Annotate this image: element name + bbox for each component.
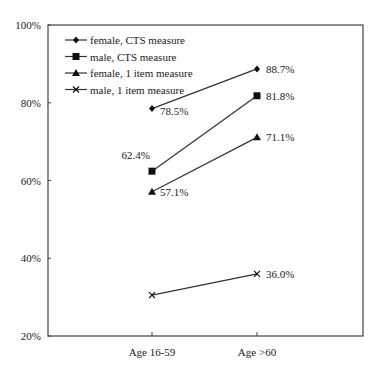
line-chart: 20%40%60%80%100% Age 16-59Age >60 78.5%8… — [0, 0, 382, 375]
data-label: 71.1% — [266, 131, 294, 143]
data-label: 81.8% — [266, 90, 294, 102]
legend-label: female, CTS measure — [90, 34, 185, 46]
x-tick-label: Age 16-59 — [129, 346, 176, 358]
diamond-marker — [149, 105, 155, 112]
diamond-marker — [73, 37, 79, 44]
square-marker — [254, 92, 261, 99]
chart-svg: 20%40%60%80%100% Age 16-59Age >60 78.5%8… — [0, 0, 382, 375]
legend-label: male, CTS measure — [90, 51, 177, 63]
square-marker — [149, 168, 156, 175]
x-tick-label: Age >60 — [238, 346, 277, 358]
triangle-marker — [253, 133, 261, 140]
series-line — [152, 137, 257, 191]
y-tick-label: 100% — [15, 19, 41, 31]
legend: female, CTS measuremale, CTS measurefema… — [65, 34, 193, 96]
diamond-marker — [254, 65, 260, 72]
data-label: 36.0% — [266, 268, 294, 280]
y-tick-label: 40% — [21, 252, 41, 264]
series-group: 78.5%88.7%62.4%81.8%57.1%71.1%36.0% — [122, 63, 295, 298]
y-tick-label: 80% — [21, 97, 41, 109]
series-2: 57.1%71.1% — [148, 131, 294, 197]
triangle-marker — [148, 188, 156, 195]
data-label: 57.1% — [160, 186, 188, 198]
y-axis: 20%40%60%80%100% — [15, 19, 51, 342]
data-label: 62.4% — [122, 149, 150, 161]
series-3: 36.0% — [149, 268, 294, 298]
series-line — [152, 274, 257, 295]
y-tick-label: 20% — [21, 330, 41, 342]
y-tick-label: 60% — [21, 175, 41, 187]
data-label: 78.5% — [160, 105, 188, 117]
data-label: 88.7% — [266, 63, 294, 75]
square-marker — [73, 53, 80, 60]
legend-label: female, 1 item measure — [90, 67, 193, 79]
legend-label: male, 1 item measure — [90, 84, 184, 96]
